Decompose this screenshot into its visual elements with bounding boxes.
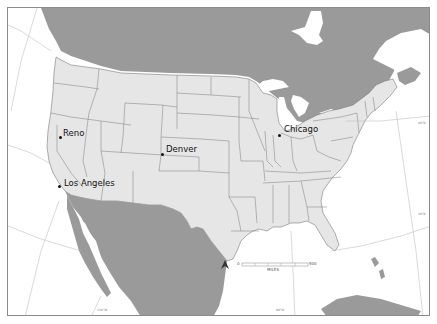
scale-start-label: 0 [237,262,240,266]
city-label-reno: Reno [63,129,84,138]
city-label-chicago: Chicago [284,125,318,134]
city-dot-los-angeles [58,185,61,188]
graticule-label: 40°N [418,122,426,125]
scale-end-label: 500 [309,262,317,266]
city-label-los-angeles: Los Angeles [64,179,115,188]
bahamas [371,257,385,279]
scale-unit-label: MILES [267,268,279,272]
map-frame [7,7,430,316]
city-label-denver: Denver [166,145,197,154]
cuba [321,295,421,316]
city-dot-denver [161,153,164,156]
graticule-label: 110°W [97,309,107,312]
city-dot-chicago [278,134,281,137]
graticule-label: 90°W [276,309,284,312]
city-dot-reno [59,136,62,139]
graticule-label: 30°N [418,213,426,216]
map-canvas [8,8,430,316]
scale-bar [242,263,308,266]
